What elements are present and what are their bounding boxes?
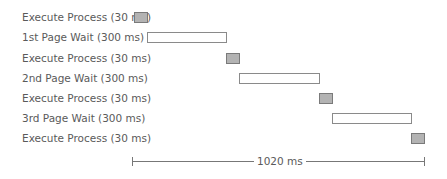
row-label-exec-4: Execute Process (30 ms) xyxy=(22,131,151,145)
row-label-exec-1: Execute Process (30 ms) xyxy=(22,10,151,24)
row-label-exec-2: Execute Process (30 ms) xyxy=(22,51,151,65)
row-label-wait-2: 2nd Page Wait (300 ms) xyxy=(22,71,148,85)
wait-bar-2 xyxy=(239,73,320,84)
exec-bar-1 xyxy=(134,12,148,23)
row-label-wait-3: 3rd Page Wait (300 ms) xyxy=(22,111,145,125)
wait-bar-1 xyxy=(147,32,227,43)
wait-bar-3 xyxy=(332,113,412,124)
exec-bar-4 xyxy=(411,133,425,144)
axis-end-tick xyxy=(424,157,425,166)
row-label-exec-3: Execute Process (30 ms) xyxy=(22,91,151,105)
exec-bar-3 xyxy=(319,93,333,104)
row-label-wait-1: 1st Page Wait (300 ms) xyxy=(22,30,144,44)
exec-bar-2 xyxy=(226,53,240,64)
axis-total-label: 1020 ms xyxy=(254,155,306,167)
